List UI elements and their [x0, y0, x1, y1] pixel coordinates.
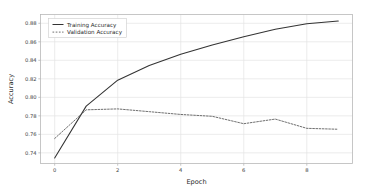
accuracy-line-chart: 024680.740.760.780.800.820.840.860.88 Tr… — [0, 0, 368, 196]
y-tick-label: 0.86 — [25, 39, 37, 45]
y-tick-label: 0.88 — [25, 20, 37, 26]
y-tick-label: 0.84 — [25, 57, 37, 63]
x-axis-title: Epoch — [186, 178, 206, 186]
y-axis-title: Accuracy — [7, 74, 15, 104]
legend-label-validation: Validation Accuracy — [67, 29, 123, 36]
y-tick-label: 0.82 — [25, 76, 37, 82]
x-tick-label: 8 — [305, 167, 308, 173]
y-tick-label: 0.78 — [25, 113, 37, 119]
y-tick-label: 0.74 — [25, 150, 37, 156]
x-tick-label: 6 — [242, 167, 245, 173]
y-tick-label: 0.76 — [25, 131, 37, 137]
x-tick-label: 0 — [53, 167, 56, 173]
y-tick-label: 0.80 — [25, 94, 37, 100]
chart-screenshot: 024680.740.760.780.800.820.840.860.88 Tr… — [0, 0, 368, 196]
chart-legend: Training AccuracyValidation Accuracy — [49, 19, 127, 38]
legend-label-training: Training Accuracy — [66, 22, 117, 29]
x-tick-label: 2 — [116, 167, 119, 173]
